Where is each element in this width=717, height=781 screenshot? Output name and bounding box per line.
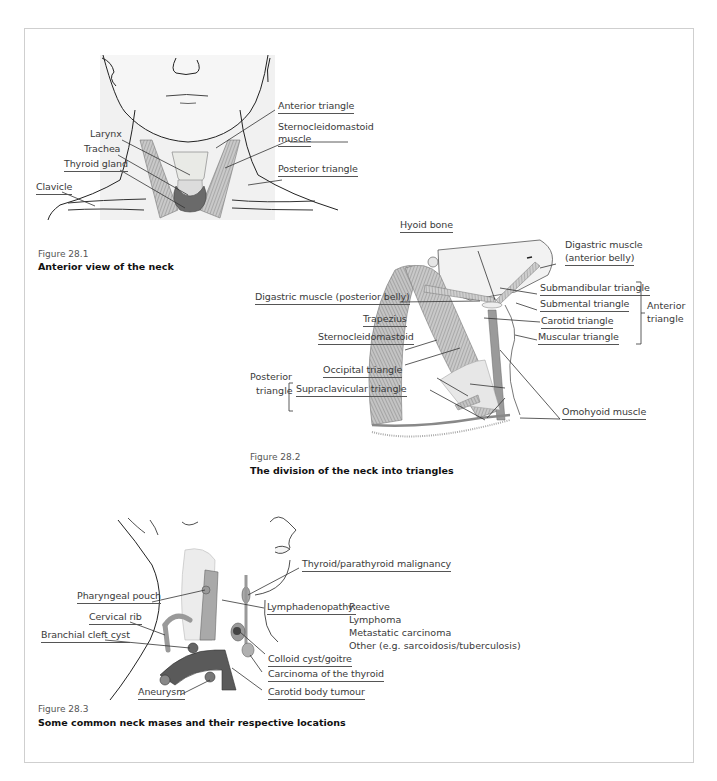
label-colloid-cyst-goitre: Colloid cyst/goitre bbox=[268, 653, 352, 667]
figure-caption: Anterior view of the neck bbox=[38, 261, 174, 272]
figure-number: Figure 28.3 bbox=[38, 704, 88, 714]
figure-number: Figure 28.2 bbox=[250, 452, 300, 462]
label-submental-triangle: Submental triangle bbox=[540, 298, 629, 312]
label-trapezius: Trapezius bbox=[363, 313, 407, 327]
lymphadenopathy-cause-metastatic: Metastatic carcinoma bbox=[349, 627, 451, 639]
label-aneurysm: Aneurysm bbox=[138, 686, 185, 700]
label-sternocleidomastoid: Sternocleidomastoid bbox=[318, 331, 414, 345]
label-anterior-triangle-group-line1: Anterior bbox=[647, 300, 685, 312]
figure-number: Figure 28.1 bbox=[38, 249, 88, 259]
label-occipital-triangle: Occipital triangle bbox=[323, 364, 402, 378]
label-branchial-cleft-cyst: Branchial cleft cyst bbox=[41, 629, 130, 643]
label-posterior-triangle: Posterior triangle bbox=[278, 163, 358, 177]
label-cervical-rib: Cervical rib bbox=[89, 611, 142, 625]
label-omohyoid-muscle: Omohyoid muscle bbox=[562, 406, 646, 420]
label-sternocleidomastoid-muscle-line1: Sternocleidomastoid bbox=[278, 121, 374, 133]
label-posterior-triangle-group-line2: triangle bbox=[256, 385, 293, 397]
label-carcinoma-of-thyroid: Carcinoma of the thyroid bbox=[268, 668, 384, 682]
label-thyroid-parathyroid-malignancy: Thyroid/parathyroid malignancy bbox=[302, 558, 451, 572]
figure-caption: Some common neck mases and their respect… bbox=[38, 717, 346, 728]
lymphadenopathy-cause-other: Other (e.g. sarcoidosis/tuberculosis) bbox=[349, 640, 521, 652]
lymphadenopathy-cause-reactive: Reactive bbox=[349, 601, 390, 613]
label-thyroid-gland: Thyroid gland bbox=[64, 158, 128, 172]
label-carotid-body-tumour: Carotid body tumour bbox=[268, 686, 365, 700]
label-digastric-posterior: Digastric muscle (posterior belly) bbox=[255, 291, 410, 305]
label-trachea: Trachea bbox=[84, 143, 120, 155]
lymphadenopathy-cause-lymphoma: Lymphoma bbox=[349, 614, 401, 626]
label-anterior-triangle: Anterior triangle bbox=[278, 100, 354, 114]
label-larynx: Larynx bbox=[90, 128, 122, 140]
label-hyoid-bone: Hyoid bone bbox=[400, 219, 453, 233]
label-carotid-triangle: Carotid triangle bbox=[541, 315, 613, 329]
label-digastric-anterior-line2: (anterior belly) bbox=[565, 252, 634, 266]
figure-caption: The division of the neck into triangles bbox=[250, 465, 454, 476]
label-sternocleidomastoid-muscle-line2: muscle bbox=[278, 133, 311, 147]
label-anterior-triangle-group-line2: triangle bbox=[647, 313, 684, 325]
label-muscular-triangle: Muscular triangle bbox=[538, 331, 619, 345]
label-submandibular-triangle: Submandibular triangle bbox=[540, 282, 650, 296]
label-posterior-triangle-group-line1: Posterior bbox=[250, 371, 292, 383]
label-pharyngeal-pouch: Pharyngeal pouch bbox=[77, 590, 161, 604]
label-digastric-anterior-line1: Digastric muscle bbox=[565, 239, 643, 251]
label-clavicle: Clavicle bbox=[36, 181, 72, 195]
label-supraclavicular-triangle: Supraclavicular triangle bbox=[296, 383, 407, 397]
label-lymphadenopathy: Lymphadenopathy: bbox=[267, 601, 356, 615]
